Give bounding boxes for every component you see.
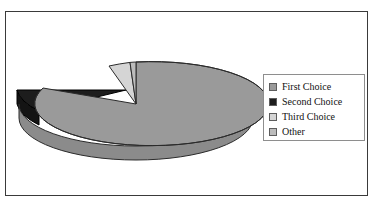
legend-item-second-choice[interactable]: Second Choice [269, 94, 364, 109]
legend-item-third-choice[interactable]: Third Choice [269, 109, 364, 124]
legend-swatch-other [269, 128, 277, 136]
legend-label-second-choice: Second Choice [282, 97, 342, 107]
legend-label-first-choice: First Choice [282, 82, 331, 92]
legend-swatch-second-choice [269, 98, 277, 106]
caption-remnant-text: . . [54, 0, 67, 2]
pie-slice-top-first-choice [35, 62, 269, 146]
legend-item-first-choice[interactable]: First Choice [269, 79, 364, 94]
clipped-caption-remnant: . . [0, 0, 375, 6]
legend-label-third-choice: Third Choice [282, 112, 335, 122]
legend-label-other: Other [282, 127, 305, 137]
legend-item-other[interactable]: Other [269, 124, 364, 139]
legend-swatch-third-choice [269, 113, 277, 121]
legend-swatch-first-choice [269, 83, 277, 91]
chart-legend: First Choice Second Choice Third Choice … [263, 74, 365, 141]
pie-chart-plot-area: First Choice Second Choice Third Choice … [6, 12, 369, 197]
chart-frame: First Choice Second Choice Third Choice … [5, 11, 368, 196]
